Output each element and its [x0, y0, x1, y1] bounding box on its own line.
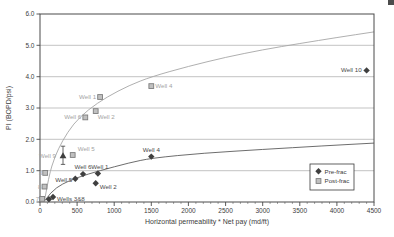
label-well-5-pre: Well 5 [55, 176, 73, 183]
label-3-post: 3 [39, 169, 43, 176]
legend-label-post-frac: Post-frac [325, 177, 350, 184]
x-tick-label: 4500 [367, 207, 382, 214]
point-well-6-post [83, 115, 88, 120]
label-well-1-pre: Well 1 [91, 163, 109, 170]
label-well-4-post: Well 4 [155, 82, 173, 89]
y-tick-label: 3.0 [25, 104, 34, 111]
point-well-5-post [70, 153, 75, 158]
point-well-9 [60, 152, 67, 158]
label-well-4-pre: Well 4 [143, 146, 161, 153]
y-tick-label: 2.0 [25, 136, 34, 143]
label-8-post: 8 [38, 183, 42, 190]
y-tick-label: 4.0 [25, 73, 34, 80]
label-well-2-pre: Well 2 [100, 183, 118, 190]
point-well-4-post [149, 84, 154, 89]
x-tick-label: 500 [72, 207, 83, 214]
chart-page: PI (BOPD/psi) Horizontal permeability * … [0, 0, 394, 237]
y-tick-label: 6.0 [25, 10, 34, 17]
point-well-2-pre [93, 180, 99, 186]
point-8-post [42, 184, 47, 189]
y-tick-label: 0.0 [25, 198, 34, 205]
label-well-6-pre: Well 6 [74, 163, 92, 170]
point-well-2-post [93, 109, 98, 114]
point-well-10-pre [363, 67, 369, 73]
x-tick-label: 3000 [255, 207, 270, 214]
x-tick-label: 0 [38, 207, 42, 214]
scatter-plot: 0500100015002000250030003500400045000.01… [0, 0, 394, 237]
point-well-1-pre [95, 170, 101, 176]
label-7-post: 7 [36, 195, 40, 202]
point-7-post [40, 197, 45, 202]
point-3-post [43, 171, 48, 176]
label-well-2-post: Well 2 [98, 113, 116, 120]
label-well-5-post: Well 5 [78, 145, 96, 152]
y-tick-label: 5.0 [25, 42, 34, 49]
x-tick-label: 3500 [293, 207, 308, 214]
x-tick-label: 2000 [181, 207, 196, 214]
scan-artifact [388, 0, 394, 5]
point-well-5-pre [72, 176, 78, 182]
x-tick-label: 1500 [144, 207, 159, 214]
label-well-10-pre: Well 10 [341, 66, 362, 73]
label-well-6-post: Well 6 [64, 113, 82, 120]
x-tick-label: 1000 [107, 207, 122, 214]
x-tick-label: 4000 [330, 207, 345, 214]
legend-marker-post-frac [316, 179, 321, 184]
legend-label-pre-frac: Pre-frac [325, 168, 347, 175]
label-well-1-post: Well 1 [79, 93, 97, 100]
label-wells-3-8-pre: Wells 3&8 [57, 195, 85, 202]
point-well-1-post [98, 95, 103, 100]
y-tick-label: 1.0 [25, 167, 34, 174]
label-well-9: Well 9 [39, 152, 57, 159]
x-tick-label: 2500 [218, 207, 233, 214]
